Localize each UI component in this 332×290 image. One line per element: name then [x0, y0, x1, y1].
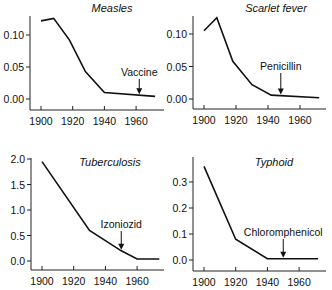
mortality-line	[204, 166, 318, 258]
x-tick-label: 1900	[192, 114, 216, 126]
y-tick-label: 0.05	[167, 61, 188, 73]
treatment-annotation: Vaccine	[121, 66, 158, 78]
arrow-down-icon	[280, 252, 286, 258]
panel-measles: 0.000.050.101900192019401960MeaslesVacci…	[4, 2, 164, 127]
y-tick-label: 1.0	[10, 204, 25, 216]
y-tick-label: 0.05	[4, 61, 25, 73]
panel-title: Measles	[92, 2, 133, 14]
panel-title: Tuberculosis	[79, 156, 141, 168]
x-tick-label: 1920	[62, 275, 86, 287]
x-tick-label: 1960	[124, 115, 148, 127]
mortality-line	[204, 18, 319, 98]
panel-tuberculosis: 0.00.51.01.52.01900192019401960Tuberculo…	[10, 153, 164, 287]
y-tick-label: 0.5	[10, 230, 25, 242]
y-tick-label: 1.5	[10, 179, 25, 191]
x-tick-label: 1920	[224, 114, 248, 126]
small-multiples-chart: 0.000.050.101900192019401960MeaslesVacci…	[0, 0, 332, 290]
treatment-annotation: Izoniozid	[101, 218, 143, 230]
mortality-line	[41, 18, 155, 96]
x-tick-label: 1960	[287, 276, 311, 288]
arrow-down-icon	[278, 89, 284, 95]
x-tick-label: 1940	[256, 114, 280, 126]
y-tick-label: 0.10	[167, 28, 188, 40]
y-tick-label: 0.1	[172, 228, 187, 240]
arrow-down-icon	[136, 88, 142, 94]
x-tick-label: 1920	[61, 115, 85, 127]
x-tick-label: 1900	[30, 275, 54, 287]
panel-title: Typhoid	[255, 156, 294, 168]
panel-title: Scarlet fever	[245, 2, 308, 14]
x-tick-label: 1940	[93, 115, 117, 127]
x-tick-label: 1900	[192, 276, 216, 288]
x-tick-label: 1960	[288, 114, 312, 126]
x-tick-label: 1940	[256, 276, 280, 288]
y-tick-label: 0.00	[167, 93, 188, 105]
y-tick-label: 2.0	[10, 153, 25, 165]
y-tick-label: 0.2	[172, 202, 187, 214]
x-tick-label: 1960	[125, 275, 149, 287]
x-tick-label: 1900	[29, 115, 53, 127]
treatment-annotation: Chloromphenicol	[244, 226, 323, 238]
y-tick-label: 0.10	[4, 29, 25, 41]
y-tick-label: 0.3	[172, 176, 187, 188]
x-tick-label: 1940	[94, 275, 118, 287]
treatment-annotation: Penicillin	[260, 60, 302, 72]
panel-scarlet-fever: 0.000.050.101900192019401960Scarlet feve…	[167, 2, 326, 126]
panel-typhoid: 0.00.10.20.31900192019401960TyphoidChlor…	[172, 156, 326, 288]
mortality-line	[42, 162, 159, 259]
y-tick-label: 0.0	[10, 255, 25, 267]
y-tick-label: 0.00	[4, 93, 25, 105]
x-tick-label: 1920	[224, 276, 248, 288]
y-tick-label: 0.0	[172, 254, 187, 266]
